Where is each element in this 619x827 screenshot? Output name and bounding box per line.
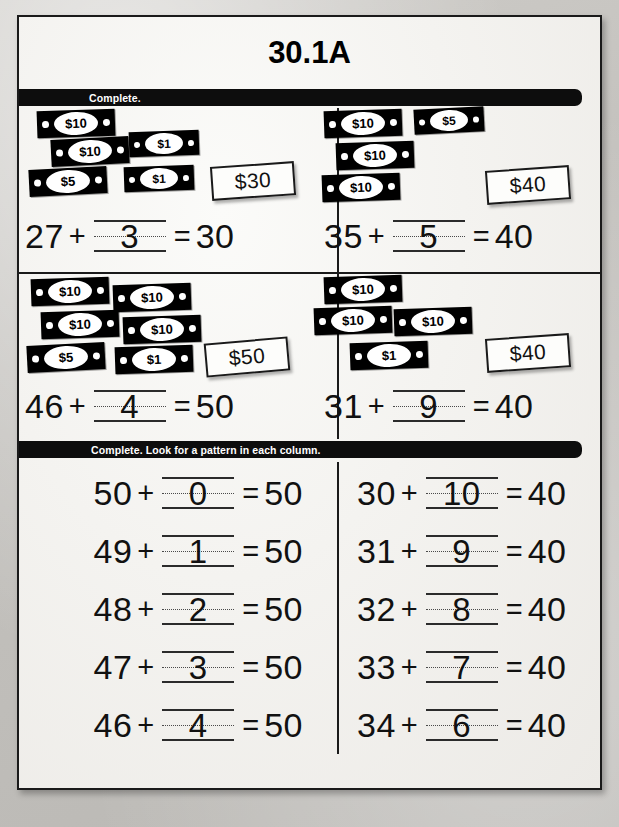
bill-stack: $10$10$1$5$1$30: [19, 106, 309, 216]
plus-operator: +: [363, 220, 390, 253]
money-problem-cell: $10$10$10$1$4031+9=40: [310, 274, 600, 441]
plus-operator: +: [64, 390, 91, 423]
answer-blank[interactable]: 5: [393, 216, 465, 256]
money-bill: $10: [41, 310, 120, 340]
handwritten-answer: 5: [419, 220, 438, 253]
bill-denomination: $5: [429, 109, 468, 132]
bill-denomination: $10: [130, 285, 175, 310]
bill-corner-dot-icon: [46, 322, 53, 329]
plus-operator: +: [132, 651, 159, 684]
title-area: 30.1A: [19, 17, 600, 89]
equation: 32+8=40: [357, 589, 567, 629]
pattern-row: 31+9=40: [349, 522, 619, 580]
instruction-text-1: Complete.: [19, 92, 141, 104]
handwritten-answer: 3: [120, 220, 139, 253]
bill-corner-dot-icon: [56, 149, 63, 156]
answer-blank[interactable]: 3: [94, 216, 166, 256]
equation-left-operand: 50: [93, 474, 132, 513]
equation-result: 50: [264, 648, 303, 687]
plus-operator: +: [396, 535, 423, 568]
bill-corner-dot-icon: [34, 179, 41, 186]
bill-corner-dot-icon: [183, 174, 189, 180]
bill-corner-dot-icon: [118, 295, 125, 302]
pattern-row: 34+6=40: [349, 696, 619, 754]
answer-blank[interactable]: 9: [426, 531, 498, 571]
handwritten-answer: 6: [452, 709, 471, 742]
equation: 46+4=50: [25, 386, 235, 426]
handwritten-answer: 10: [443, 477, 481, 510]
money-bill: $5: [413, 106, 484, 135]
equation-left-operand: 31: [357, 532, 396, 571]
bill-corner-dot-icon: [134, 141, 140, 147]
equation-result: 50: [264, 706, 303, 745]
bill-corner-dot-icon: [416, 351, 423, 358]
bill-denomination: $10: [411, 309, 456, 334]
equation: 34+6=40: [357, 705, 567, 745]
plus-operator: +: [132, 709, 159, 742]
price-tag: $50: [204, 336, 291, 377]
answer-blank[interactable]: 7: [426, 647, 498, 687]
plus-operator: +: [64, 220, 91, 253]
handwritten-answer: 4: [120, 390, 139, 423]
money-bill: $5: [28, 166, 107, 197]
plus-operator: +: [132, 535, 159, 568]
bill-denomination: $10: [339, 175, 384, 200]
equation-result: 40: [528, 532, 567, 571]
bill-corner-dot-icon: [380, 316, 387, 323]
plus-operator: +: [363, 390, 390, 423]
bill-stack: $10$10$10$10$5$1$50: [19, 274, 309, 384]
equation-left-operand: 35: [324, 217, 363, 256]
answer-blank[interactable]: 6: [426, 705, 498, 745]
money-bill: $10: [50, 136, 129, 167]
bill-denomination: $1: [367, 343, 412, 368]
equals-operator: =: [237, 477, 264, 510]
bill-corner-dot-icon: [32, 355, 39, 362]
answer-blank[interactable]: 4: [162, 705, 234, 745]
answer-blank[interactable]: 9: [393, 386, 465, 426]
handwritten-answer: 4: [189, 709, 208, 742]
money-bill: $1: [350, 341, 429, 371]
equals-operator: =: [501, 593, 528, 626]
bill-corner-dot-icon: [329, 121, 336, 128]
pattern-row: 49+1=50: [29, 522, 319, 580]
answer-blank[interactable]: 2: [162, 589, 234, 629]
equation-result: 40: [528, 706, 567, 745]
answer-blank[interactable]: 0: [162, 473, 234, 513]
bill-corner-dot-icon: [36, 289, 43, 296]
instruction-text-2: Complete. Look for a pattern in each col…: [19, 444, 321, 456]
bill-stack: $10$5$10$10$40: [310, 106, 600, 216]
equation-left-operand: 27: [25, 217, 64, 256]
plus-operator: +: [132, 477, 159, 510]
bill-corner-dot-icon: [355, 353, 362, 360]
bill-corner-dot-icon: [388, 183, 395, 190]
answer-blank[interactable]: 3: [162, 647, 234, 687]
pattern-row: 50+0=50: [29, 464, 319, 522]
equation-left-operand: 32: [357, 590, 396, 629]
answer-blank[interactable]: 1: [162, 531, 234, 571]
answer-blank[interactable]: 8: [426, 589, 498, 629]
handwritten-answer: 0: [189, 477, 208, 510]
bill-denomination: $1: [145, 132, 184, 154]
money-bill: $10: [314, 306, 393, 336]
bill-corner-dot-icon: [117, 146, 124, 153]
money-bill: $5: [26, 342, 105, 373]
price-tag: $40: [485, 333, 571, 373]
pattern-vertical-divider: [337, 462, 339, 754]
bill-corner-dot-icon: [128, 327, 135, 334]
bill-corner-dot-icon: [129, 176, 135, 182]
equation-left-operand: 46: [25, 387, 64, 426]
money-bill: $10: [123, 315, 202, 345]
bill-denomination: $10: [140, 317, 185, 342]
bill-denomination: $10: [331, 308, 376, 333]
equals-operator: =: [501, 651, 528, 684]
answer-blank[interactable]: 4: [94, 386, 166, 426]
handwritten-answer: 8: [452, 593, 471, 626]
bill-denomination: $5: [43, 345, 88, 370]
equation-left-operand: 48: [93, 590, 132, 629]
price-tag: $40: [485, 165, 571, 205]
answer-blank[interactable]: 10: [426, 473, 498, 513]
money-bill: $10: [394, 307, 473, 337]
bill-corner-dot-icon: [103, 119, 110, 126]
equation-result: 50: [196, 387, 235, 426]
bill-denomination: $10: [58, 312, 103, 337]
